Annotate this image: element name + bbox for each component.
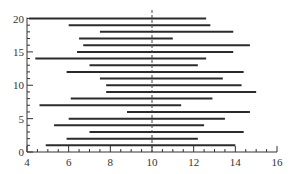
y-tick-label: 15	[13, 46, 25, 58]
y-tick-label: 10	[13, 79, 25, 91]
confidence-interval-chart: 46810121416 05101520	[0, 0, 295, 174]
interval-lines	[29, 19, 256, 146]
x-tick-label: 10	[147, 156, 159, 168]
x-tick-label: 6	[66, 156, 72, 168]
y-tick-label: 5	[19, 113, 25, 125]
x-tick-label: 14	[230, 156, 242, 168]
y-tick-label: 0	[19, 146, 25, 158]
x-tick-label: 4	[24, 156, 30, 168]
y-tick-labels: 05101520	[13, 13, 25, 159]
x-tick-label: 8	[108, 156, 114, 168]
x-tick-label: 12	[188, 156, 199, 168]
x-tick-label: 16	[272, 156, 284, 168]
x-tick-labels: 46810121416	[24, 156, 283, 168]
y-tick-label: 20	[13, 13, 25, 25]
